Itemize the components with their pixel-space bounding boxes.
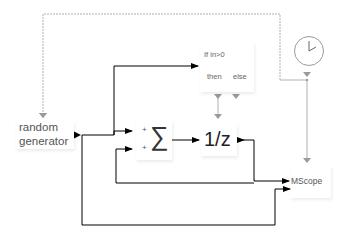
activation-arrows — [39, 72, 311, 163]
data-links — [82, 66, 290, 225]
random-to-scope2-link[interactable] — [82, 135, 290, 225]
random-to-sum1-link[interactable] — [114, 131, 132, 135]
if-condition-label: If in>0 — [204, 50, 225, 59]
activation-links — [43, 14, 307, 160]
clock-block[interactable] — [292, 34, 326, 68]
delay-block[interactable]: 1/z — [201, 124, 237, 156]
sum-block[interactable]: + + ∑ — [136, 120, 172, 160]
mscope-label: MScope — [291, 176, 322, 186]
sigma-icon: ∑ — [150, 121, 169, 152]
delay-out-link[interactable] — [236, 140, 289, 181]
then-port-label: then — [207, 72, 222, 81]
sum-plus-1: + — [142, 125, 147, 134]
delay-label: 1/z — [204, 128, 231, 151]
if-then-else-block[interactable]: If in>0 then else — [200, 42, 254, 92]
mscope-block[interactable]: MScope — [291, 166, 331, 198]
random-generator-label-line2: generator — [19, 135, 68, 147]
random-generator-block[interactable]: random generator — [16, 121, 74, 149]
sum-plus-2: + — [142, 143, 147, 152]
clock-icon — [292, 34, 326, 68]
else-port-label: else — [233, 72, 247, 81]
random-generator-label-line1: random — [19, 121, 58, 133]
